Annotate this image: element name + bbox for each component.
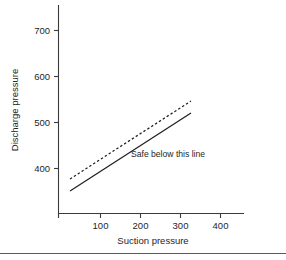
y-tick-label-600: 600 [34, 71, 50, 82]
safe-line-annotation: Safe below this line [131, 149, 205, 159]
x-tick-label-100: 100 [93, 220, 109, 231]
x-tick-label-300: 300 [173, 220, 189, 231]
y-tick-label-500: 500 [34, 117, 50, 128]
x-axis-title: Suction pressure [117, 235, 188, 246]
y-tick-label-700: 700 [34, 25, 50, 36]
x-tick-label-400: 400 [213, 220, 229, 231]
chart-figure: 700 600 500 400 100 200 300 400 Suction … [0, 0, 286, 260]
y-tick-label-400: 400 [34, 163, 50, 174]
y-axis-title: Discharge pressure [9, 69, 20, 151]
x-tick-label-200: 200 [133, 220, 149, 231]
chart-plot-area: 700 600 500 400 100 200 300 400 Suction … [0, 0, 286, 260]
